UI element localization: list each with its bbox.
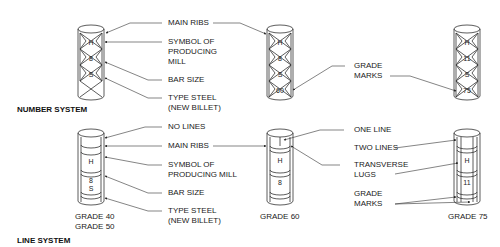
label-grade-marks-ls-line2: MARKS [354, 199, 382, 209]
line-system-bar-3-marks: H 11 [463, 157, 470, 186]
label-symbol-of-producing-mill-line2: PRODUCING [168, 47, 217, 57]
svg-text:8: 8 [278, 179, 282, 186]
svg-text:S: S [465, 71, 470, 78]
label-bar-size: BAR SIZE [168, 75, 204, 85]
label-transverse-lugs-line2: LUGS [354, 170, 376, 180]
line-system-bar-2-marks: H 8 [277, 157, 282, 186]
label-two-lines: TWO LINES [354, 143, 398, 153]
label-main-ribs: MAIN RIBS [168, 18, 209, 28]
label-grade-marks-line1: GRADE [354, 61, 382, 71]
rebar-identification-diagram: H 8 S H 8 S 60 H 11 S 75 [0, 0, 500, 247]
caption-grade-50: GRADE 50 [75, 222, 115, 232]
label-main-ribs-line-system: MAIN RIBS [168, 141, 209, 151]
number-system-bar-2-marks: H 8 S 60 [276, 39, 284, 94]
label-type-steel-line2: (NEW BILLET) [168, 103, 221, 113]
grade-mark-60: 60 [276, 87, 284, 94]
label-symbol-mill-line1: SYMBOL OF [168, 160, 214, 170]
svg-text:H: H [464, 39, 469, 46]
line-system-bar-3 [454, 129, 480, 205]
svg-text:11: 11 [463, 179, 470, 186]
line-system-bar-2 [267, 129, 293, 205]
svg-text:H: H [277, 157, 282, 164]
label-bar-size-line-system: BAR SIZE [168, 188, 204, 198]
svg-text:8: 8 [89, 177, 93, 184]
label-no-lines: NO LINES [168, 122, 205, 132]
bar-size-mark: 8 [89, 55, 93, 62]
number-system-bar-1-marks: H 8 S [88, 39, 93, 78]
line-system-title: LINE SYSTEM [17, 236, 70, 245]
label-type-steel-line1: TYPE STEEL [168, 93, 216, 103]
caption-grade-40: GRADE 40 [75, 212, 115, 222]
mill-symbol-mark: H [88, 39, 93, 46]
svg-text:S: S [89, 185, 94, 192]
label-grade-marks-ls-line1: GRADE [354, 189, 382, 199]
svg-text:8: 8 [278, 55, 282, 62]
label-one-line: ONE LINE [354, 125, 391, 135]
label-symbol-mill-line2: PRODUCING MILL [168, 170, 237, 180]
steel-type-mark: S [89, 71, 94, 78]
svg-text:H: H [277, 39, 282, 46]
line-system-bar-1 [78, 129, 104, 205]
line-system-bar-1-marks: H 8 S [88, 158, 93, 192]
label-grade-marks-line2: MARKS [354, 71, 382, 81]
label-type-steel-ls-line2: (NEW BILLET) [168, 216, 221, 226]
label-type-steel-ls-line1: TYPE STEEL [168, 206, 216, 216]
svg-text:11: 11 [463, 55, 470, 62]
label-symbol-of-producing-mill-line3: MILL [168, 57, 186, 67]
caption-grade-60: GRADE 60 [260, 212, 300, 222]
number-system-bar-3-marks: H 11 S 75 [463, 39, 471, 94]
svg-text:H: H [464, 157, 469, 164]
label-symbol-of-producing-mill-line1: SYMBOL OF [168, 37, 214, 47]
number-system-title: NUMBER SYSTEM [17, 105, 87, 114]
number-system-bar-1 [78, 25, 104, 100]
caption-grade-75: GRADE 75 [448, 212, 488, 222]
label-transverse-lugs-line1: TRANSVERSE [354, 160, 408, 170]
svg-text:H: H [88, 158, 93, 165]
grade-mark-75: 75 [463, 87, 471, 94]
svg-text:S: S [278, 71, 283, 78]
